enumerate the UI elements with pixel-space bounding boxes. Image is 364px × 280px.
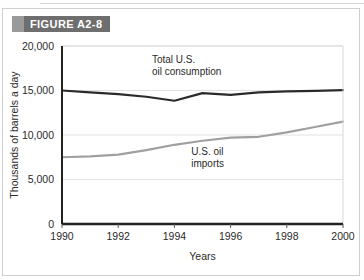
figure-root: FIGURE A2-8 05,00010,00015,00020,0001990… xyxy=(0,0,364,280)
series-annotation-label: U.S. oil xyxy=(191,146,223,157)
figure-banner: FIGURE A2-8 xyxy=(12,16,110,32)
y-tick-label: 15,000 xyxy=(22,84,54,96)
x-tick-label: 1992 xyxy=(107,230,131,242)
page-rule-top xyxy=(40,3,364,4)
x-tick-label: 1998 xyxy=(275,230,299,242)
figure-banner-label: FIGURE A2-8 xyxy=(24,16,110,32)
series-annotations: Total U.S.oil consumptionU.S. oilimports xyxy=(152,54,224,170)
banner-swatch-icon xyxy=(12,16,24,32)
y-tick-label: 10,000 xyxy=(22,129,54,141)
y-tick-label: 0 xyxy=(48,218,54,230)
series-annotation-label: oil consumption xyxy=(152,66,221,77)
series-annotation-label: Total U.S. xyxy=(152,54,195,65)
x-tick-label: 1994 xyxy=(163,230,187,242)
x-axis-title: Years xyxy=(189,250,215,262)
y-axis-title: Thousands of barrels a day xyxy=(8,71,20,199)
line-chart: 05,00010,00015,00020,0001990199219941996… xyxy=(0,34,364,274)
x-tick-label: 1996 xyxy=(219,230,243,242)
x-tick-label: 2000 xyxy=(331,230,355,242)
y-tick-label: 5,000 xyxy=(28,173,54,185)
chart-container: 05,00010,00015,00020,0001990199219941996… xyxy=(0,34,364,274)
x-tick-label: 1990 xyxy=(50,230,74,242)
series-annotation-label: imports xyxy=(191,158,224,169)
y-tick-label: 20,000 xyxy=(22,40,54,52)
series-line xyxy=(62,90,343,101)
